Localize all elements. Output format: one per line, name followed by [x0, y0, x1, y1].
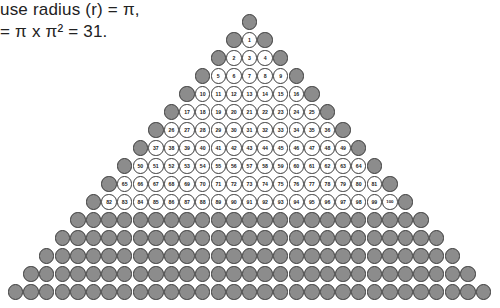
numbered-ball: 53 [179, 158, 194, 173]
gray-ball [117, 158, 132, 173]
gray-ball [195, 284, 210, 299]
numbered-ball: 32 [257, 122, 272, 137]
gray-ball [86, 230, 101, 245]
gray-ball [39, 248, 54, 263]
gray-ball [429, 266, 444, 281]
gray-ball [429, 230, 444, 245]
gray-ball [320, 248, 335, 263]
numbered-ball: 9 [273, 68, 288, 83]
gray-ball [257, 284, 272, 299]
gray-ball [335, 122, 350, 137]
gray-ball [304, 230, 319, 245]
gray-ball [242, 248, 257, 263]
numbered-ball: 73 [242, 176, 257, 191]
gray-ball [195, 230, 210, 245]
gray-ball [304, 266, 319, 281]
numbered-ball: 66 [133, 176, 148, 191]
gray-ball [413, 284, 428, 299]
gray-ball [148, 248, 163, 263]
gray-ball [86, 212, 101, 227]
gray-ball [101, 248, 116, 263]
gray-ball [179, 212, 194, 227]
numbered-ball: 29 [211, 122, 226, 137]
gray-ball [179, 266, 194, 281]
gray-ball [195, 68, 210, 83]
gray-ball [398, 194, 413, 209]
gray-ball [101, 212, 116, 227]
numbered-ball: 14 [257, 86, 272, 101]
gray-ball [273, 230, 288, 245]
gray-ball [39, 266, 54, 281]
numbered-ball: 59 [273, 158, 288, 173]
numbered-ball: 82 [101, 194, 116, 209]
gray-ball [445, 248, 460, 263]
gray-ball [367, 158, 382, 173]
gray-ball [133, 230, 148, 245]
numbered-ball: 46 [289, 140, 304, 155]
gray-ball [70, 230, 85, 245]
gray-ball [55, 266, 70, 281]
gray-ball [273, 266, 288, 281]
numbered-ball: 24 [289, 104, 304, 119]
numbered-ball: 3 [242, 50, 257, 65]
gray-ball [133, 284, 148, 299]
numbered-ball: 89 [211, 194, 226, 209]
gray-ball [304, 86, 319, 101]
numbered-ball: 18 [195, 104, 210, 119]
numbered-ball: 2 [226, 50, 241, 65]
numbered-ball: 36 [320, 122, 335, 137]
numbered-ball: 57 [242, 158, 257, 173]
gray-ball [382, 266, 397, 281]
numbered-ball: 1 [242, 32, 257, 47]
numbered-ball: 60 [289, 158, 304, 173]
gray-ball [351, 140, 366, 155]
numbered-ball: 38 [164, 140, 179, 155]
gray-ball [273, 50, 288, 65]
numbered-ball: 30 [226, 122, 241, 137]
numbered-ball: 39 [179, 140, 194, 155]
numbered-ball: 99 [367, 194, 382, 209]
numbered-ball: 56 [226, 158, 241, 173]
gray-ball [398, 248, 413, 263]
numbered-ball: 78 [320, 176, 335, 191]
gray-ball [320, 284, 335, 299]
gray-ball [460, 266, 475, 281]
numbered-ball: 4 [257, 50, 272, 65]
gray-ball [148, 230, 163, 245]
gray-ball [211, 248, 226, 263]
numbered-ball: 21 [242, 104, 257, 119]
gray-ball [23, 284, 38, 299]
gray-ball [179, 248, 194, 263]
gray-ball [304, 212, 319, 227]
numbered-ball: 34 [289, 122, 304, 137]
numbered-ball: 91 [242, 194, 257, 209]
gray-ball [382, 212, 397, 227]
gray-ball [320, 266, 335, 281]
numbered-ball: 67 [148, 176, 163, 191]
numbered-ball: 5 [211, 68, 226, 83]
numbered-ball: 26 [164, 122, 179, 137]
gray-ball [351, 248, 366, 263]
gray-ball [273, 248, 288, 263]
numbered-ball: 11 [211, 86, 226, 101]
numbered-ball: 80 [351, 176, 366, 191]
numbered-ball: 48 [320, 140, 335, 155]
gray-ball [367, 212, 382, 227]
gray-ball [70, 266, 85, 281]
gray-ball [289, 68, 304, 83]
numbered-ball: 84 [133, 194, 148, 209]
gray-ball [148, 212, 163, 227]
gray-ball [164, 266, 179, 281]
numbered-ball: 37 [148, 140, 163, 155]
numbered-ball: 13 [242, 86, 257, 101]
numbered-ball: 33 [273, 122, 288, 137]
gray-ball [179, 86, 194, 101]
gray-ball [211, 284, 226, 299]
gray-ball [367, 230, 382, 245]
gray-ball [226, 230, 241, 245]
gray-ball [242, 212, 257, 227]
numbered-ball: 41 [211, 140, 226, 155]
gray-ball [257, 230, 272, 245]
gray-ball [398, 266, 413, 281]
gray-ball [211, 266, 226, 281]
